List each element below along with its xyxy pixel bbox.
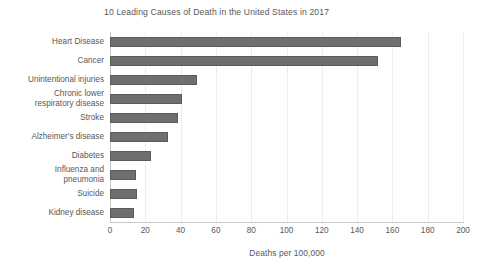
bar-row[interactable] (110, 108, 463, 127)
bar-row[interactable] (110, 51, 463, 70)
x-axis-tick-label: 80 (247, 226, 256, 235)
bar-row[interactable] (110, 32, 463, 51)
x-axis-tick-label: 140 (350, 226, 364, 235)
x-axis-tick-label: 20 (141, 226, 150, 235)
x-axis-label: Deaths per 100,000 (110, 248, 464, 258)
bar[interactable] (110, 75, 197, 85)
bar-series (110, 32, 463, 222)
x-axis-tick-label: 40 (176, 226, 185, 235)
bar[interactable] (110, 189, 137, 199)
bar[interactable] (110, 56, 378, 66)
bar[interactable] (110, 151, 151, 161)
y-axis-tick-label: Influenza andpneumonia (0, 165, 104, 184)
bar-row[interactable] (110, 70, 463, 89)
chart-title: 10 Leading Causes of Death in the United… (104, 7, 444, 17)
bar[interactable] (110, 94, 182, 104)
gridline (463, 32, 464, 222)
y-axis-tick-label: Alzheimer's disease (0, 127, 104, 146)
chart-figure: 10 Leading Causes of Death in the United… (0, 0, 498, 275)
y-axis-tick-label: Unintentional injuries (0, 70, 104, 89)
x-axis-tick-label: 100 (280, 226, 294, 235)
bar-row[interactable] (110, 165, 463, 184)
x-axis-tick-labels: 020406080100120140160180200 (110, 226, 464, 240)
plot-area (110, 32, 463, 222)
x-axis-tick-label: 160 (386, 226, 400, 235)
x-axis-tick-label: 180 (421, 226, 435, 235)
y-axis-tick-labels: Heart DiseaseCancerUnintentional injurie… (0, 32, 104, 222)
bar[interactable] (110, 132, 168, 142)
bar-row[interactable] (110, 203, 463, 222)
y-axis-tick-label: Kidney disease (0, 203, 104, 222)
x-axis-tick-label: 120 (315, 226, 329, 235)
bar-row[interactable] (110, 184, 463, 203)
y-axis-tick-label: Heart Disease (0, 32, 104, 51)
y-axis-tick-label: Chronic lowerrespiratory disease (0, 89, 104, 108)
y-axis-tick-label: Diabetes (0, 146, 104, 165)
x-axis-spine (110, 222, 464, 223)
bar-row[interactable] (110, 127, 463, 146)
x-axis-tick-label: 0 (108, 226, 113, 235)
y-axis-tick-label: Stroke (0, 108, 104, 127)
bar[interactable] (110, 208, 134, 218)
y-axis-tick-label: Suicide (0, 184, 104, 203)
bar[interactable] (110, 170, 136, 180)
bar-row[interactable] (110, 146, 463, 165)
bar[interactable] (110, 37, 401, 47)
y-axis-tick-label: Cancer (0, 51, 104, 70)
bar-row[interactable] (110, 89, 463, 108)
x-axis-tick-label: 60 (211, 226, 220, 235)
x-axis-tick-label: 200 (456, 226, 470, 235)
bar[interactable] (110, 113, 178, 123)
